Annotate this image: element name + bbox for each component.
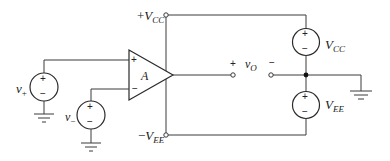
vout-sub: O: [250, 63, 257, 73]
vee-terminal-label: −VEE: [138, 129, 164, 145]
vcc-source-label: VCC: [325, 38, 345, 54]
vee-source-minus: −: [302, 107, 308, 117]
vcc-source-minus: −: [302, 44, 308, 54]
vout-minus-sign: −: [269, 58, 275, 68]
vout-minus-terminal: [269, 73, 273, 77]
vout-plus-terminal: [231, 73, 235, 77]
vee-source-sub: EE: [333, 104, 344, 114]
ground-right-icon: [350, 75, 372, 99]
vcc-source-sub: CC: [333, 44, 345, 54]
opamp-noninverting-sign: +: [131, 55, 137, 65]
vee-sub: EE: [153, 135, 164, 145]
circuit-diagram: [0, 0, 390, 161]
vplus-sub: +: [22, 88, 27, 98]
vee-source-main: V: [325, 97, 333, 112]
vplus-source-plus: +: [40, 74, 46, 84]
vcc-source-plus: +: [302, 29, 308, 39]
opamp-inverting-sign: −: [132, 84, 138, 94]
vee-source-plus: +: [302, 92, 308, 102]
vcc-terminal: [164, 13, 168, 17]
vcc-source-main: V: [325, 37, 333, 52]
vminus-label: v−: [65, 111, 75, 126]
vminus-source-minus: −: [87, 117, 93, 127]
vee-source-label: VEE: [325, 98, 344, 114]
vcc-terminal-label: +VCC: [137, 9, 164, 25]
vout-plus-sign: +: [230, 59, 236, 69]
opamp-gain-label: A: [141, 70, 148, 82]
ground-node-dot: [304, 73, 309, 78]
vcc-sub: CC: [152, 15, 164, 25]
vplus-label: v+: [16, 82, 27, 98]
ground-vminus-icon: [81, 143, 101, 151]
vee-terminal: [164, 133, 168, 137]
vminus-source-plus: +: [87, 102, 93, 112]
vout-label: vO: [245, 58, 257, 73]
vminus-sub: −: [70, 116, 75, 126]
vplus-source-minus: −: [40, 89, 46, 99]
ground-vplus-icon: [34, 114, 54, 122]
